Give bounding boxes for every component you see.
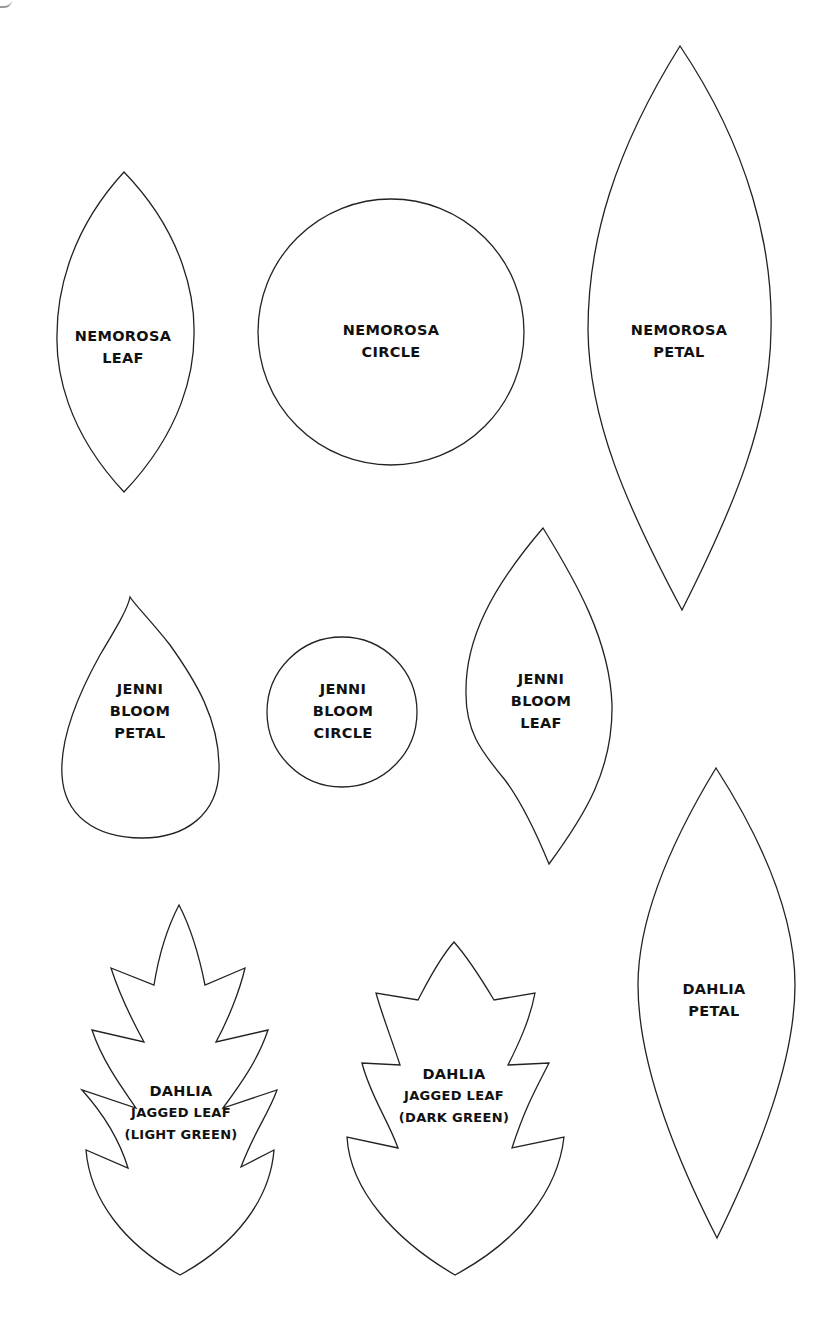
label-line: LEAF bbox=[75, 347, 171, 369]
label-line: JAGGED LEAF bbox=[124, 1102, 237, 1124]
label-line: JENNI bbox=[511, 668, 571, 690]
nemorosa-leaf-label: NEMOROSA LEAF bbox=[75, 325, 171, 369]
label-line: BLOOM bbox=[511, 690, 571, 712]
jenni-bloom-circle-label: JENNI BLOOM CIRCLE bbox=[313, 678, 373, 744]
label-line: DAHLIA bbox=[399, 1063, 509, 1085]
label-line: BLOOM bbox=[313, 700, 373, 722]
label-line: NEMOROSA bbox=[343, 319, 439, 341]
label-line: PETAL bbox=[110, 722, 170, 744]
jenni-bloom-leaf-label: JENNI BLOOM LEAF bbox=[511, 668, 571, 734]
label-line: CIRCLE bbox=[313, 722, 373, 744]
label-line: NEMOROSA bbox=[631, 319, 727, 341]
label-line: PETAL bbox=[682, 1000, 745, 1022]
label-line: LEAF bbox=[511, 712, 571, 734]
label-line: NEMOROSA bbox=[75, 325, 171, 347]
dahlia-jagged-leaf-light-label: DAHLIA JAGGED LEAF (LIGHT GREEN) bbox=[124, 1080, 237, 1146]
label-line: CIRCLE bbox=[343, 341, 439, 363]
label-line: JENNI bbox=[313, 678, 373, 700]
label-line: (LIGHT GREEN) bbox=[124, 1124, 237, 1146]
template-sheet: NEMOROSA LEAF NEMOROSA CIRCLE NEMOROSA P… bbox=[0, 0, 838, 1332]
nemorosa-petal-label: NEMOROSA PETAL bbox=[631, 319, 727, 363]
label-line: BLOOM bbox=[110, 700, 170, 722]
label-line: DAHLIA bbox=[124, 1080, 237, 1102]
label-line: PETAL bbox=[631, 341, 727, 363]
nemorosa-circle-label: NEMOROSA CIRCLE bbox=[343, 319, 439, 363]
label-line: (DARK GREEN) bbox=[399, 1107, 509, 1129]
label-line: JAGGED LEAF bbox=[399, 1085, 509, 1107]
label-line: JENNI bbox=[110, 678, 170, 700]
jenni-bloom-petal-label: JENNI BLOOM PETAL bbox=[110, 678, 170, 744]
dahlia-jagged-leaf-dark-label: DAHLIA JAGGED LEAF (DARK GREEN) bbox=[399, 1063, 509, 1129]
dahlia-petal-label: DAHLIA PETAL bbox=[682, 978, 745, 1022]
label-line: DAHLIA bbox=[682, 978, 745, 1000]
